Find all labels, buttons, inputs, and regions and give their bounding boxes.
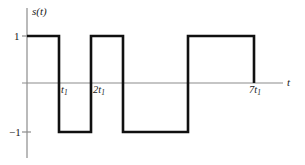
x-tick-label-7t1-base: 7t bbox=[249, 84, 257, 95]
waveform-figure: s(t) t 1 −1 t1 2t1 7t1 bbox=[0, 0, 305, 165]
x-axis-title: t bbox=[287, 77, 290, 88]
plot-canvas bbox=[0, 0, 305, 165]
y-tick-label-minus-one: −1 bbox=[9, 127, 21, 138]
x-tick-label-2t1-sub: 1 bbox=[101, 88, 105, 97]
x-tick-label-t1-sub: 1 bbox=[64, 88, 68, 97]
y-tick-label-plus-one: 1 bbox=[14, 31, 20, 42]
x-tick-label-t1: t1 bbox=[61, 85, 68, 96]
x-tick-label-2t1-base: 2t bbox=[93, 84, 101, 95]
x-tick-label-7t1-sub: 1 bbox=[257, 88, 261, 97]
x-tick-label-7t1: 7t1 bbox=[249, 85, 261, 96]
x-tick-label-2t1: 2t1 bbox=[93, 85, 105, 96]
y-axis-title: s(t) bbox=[32, 6, 47, 17]
